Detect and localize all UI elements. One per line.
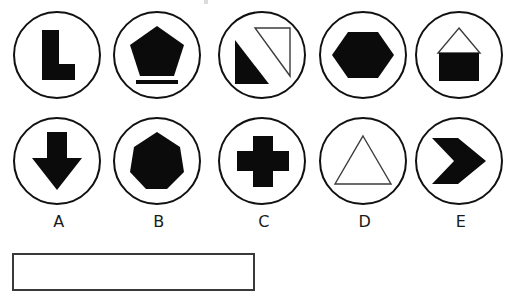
down-arrow-icon (32, 132, 82, 190)
triangle-outline-icon (335, 136, 391, 184)
chevron-right-icon (432, 138, 486, 184)
option-label-b: B (112, 212, 206, 231)
puzzle-sheet: A B C D (0, 0, 512, 308)
option-r2c4[interactable]: D (318, 116, 412, 206)
option-r2c5[interactable]: E (414, 116, 508, 206)
option-label-d: D (318, 212, 412, 231)
circle-outline (320, 118, 406, 204)
heptagon-icon (130, 132, 184, 189)
option-r1c4[interactable] (318, 10, 412, 100)
option-circle-r1c4[interactable] (318, 10, 408, 100)
option-circle-r2c2[interactable] (112, 116, 202, 206)
house-base-icon (439, 53, 479, 81)
l-shape-icon (42, 30, 75, 80)
option-circle-r1c2[interactable] (112, 10, 202, 100)
answer-entry-box[interactable] (12, 253, 255, 291)
option-r2c2[interactable]: B (112, 116, 206, 206)
outline-right-triangle-icon (255, 28, 290, 76)
option-circle-r2c3[interactable] (217, 116, 307, 206)
cross-icon (237, 136, 289, 187)
option-r2c1[interactable]: A (12, 116, 106, 206)
option-r2c3[interactable]: C (217, 116, 311, 206)
option-r1c1[interactable] (12, 10, 106, 100)
scan-artifact (204, 0, 208, 4)
solid-right-triangle-icon (235, 40, 269, 84)
option-circle-r1c5[interactable] (414, 10, 504, 100)
option-label-e: E (414, 212, 508, 231)
option-circle-r2c1[interactable] (12, 116, 102, 206)
house-roof-icon (438, 28, 480, 53)
underline-bar-icon (136, 80, 178, 84)
option-circle-r2c4[interactable] (318, 116, 408, 206)
option-r1c3[interactable] (217, 10, 311, 100)
option-circle-r1c3[interactable] (217, 10, 307, 100)
pentagon-icon (130, 26, 184, 76)
circle-outline (219, 12, 305, 98)
option-circle-r1c1[interactable] (12, 10, 102, 100)
option-r1c2[interactable] (112, 10, 206, 100)
hexagon-icon (332, 32, 394, 78)
option-r1c5[interactable] (414, 10, 508, 100)
option-label-a: A (12, 212, 106, 231)
option-circle-r2c5[interactable] (414, 116, 504, 206)
option-label-c: C (217, 212, 311, 231)
